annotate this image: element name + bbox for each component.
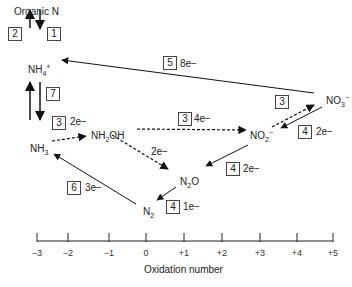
label-no3: NO3− bbox=[326, 95, 349, 106]
electrons-5: 8e− bbox=[180, 58, 197, 69]
label-nh3: NH3 bbox=[30, 143, 48, 154]
electrons-4c: 1e− bbox=[183, 201, 200, 212]
electrons-4b: 2e− bbox=[243, 163, 260, 174]
axis-tick-label: +5 bbox=[323, 248, 343, 258]
process-box-3a: 3 bbox=[52, 116, 66, 130]
process-box-4c: 4 bbox=[166, 200, 180, 214]
axis-tick-label: +1 bbox=[174, 248, 194, 258]
label-n2o: N2O bbox=[180, 176, 199, 187]
axis-tick-label: −1 bbox=[99, 248, 119, 258]
axis-tick-label: +4 bbox=[287, 248, 307, 258]
process-box-4a: 4 bbox=[298, 125, 312, 139]
arrow-4c bbox=[157, 187, 176, 200]
label-nh4: NH4+ bbox=[28, 64, 50, 75]
label-organic-n: Organic N bbox=[14, 6, 59, 17]
label-no2: NO2− bbox=[250, 130, 273, 141]
process-box-2: 2 bbox=[8, 27, 22, 41]
axis-tick-label: +3 bbox=[250, 248, 270, 258]
axis-tick-label: −3 bbox=[27, 248, 47, 258]
electrons-6: 3e− bbox=[85, 182, 102, 193]
nitrogen-cycle-diagram bbox=[0, 0, 352, 287]
process-box-3c: 3 bbox=[275, 95, 289, 109]
axis-tick-label: 0 bbox=[136, 248, 156, 258]
electrons-nh2oh-n2o: 2e− bbox=[151, 146, 168, 157]
arrow-3b bbox=[137, 129, 246, 130]
arrow-6 bbox=[54, 154, 136, 204]
axis-tick-label: −2 bbox=[58, 248, 78, 258]
label-nh2oh: NH2OH bbox=[91, 130, 124, 141]
electrons-4a: 2e− bbox=[316, 126, 333, 137]
electrons-3b: 4e− bbox=[194, 113, 211, 124]
process-box-4b: 4 bbox=[226, 162, 240, 176]
axis-tick-label: +2 bbox=[212, 248, 232, 258]
label-n2: N2 bbox=[143, 206, 154, 217]
process-box-7: 7 bbox=[46, 87, 60, 101]
process-box-3b: 3 bbox=[178, 112, 192, 126]
electrons-3a: 2e− bbox=[70, 116, 87, 127]
axis-label: Oxidation number bbox=[144, 264, 223, 275]
arrow-3a bbox=[52, 136, 86, 141]
process-box-5: 5 bbox=[163, 56, 177, 70]
process-box-6: 6 bbox=[67, 181, 81, 195]
process-box-1: 1 bbox=[47, 27, 61, 41]
